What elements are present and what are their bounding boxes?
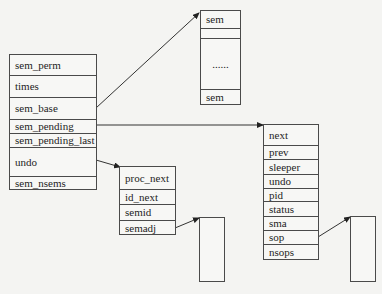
field-nsops: nsops bbox=[264, 245, 318, 260]
semadj-array bbox=[199, 217, 225, 282]
field-sem-base: sem_base bbox=[10, 98, 96, 120]
field-pid: pid bbox=[264, 189, 318, 202]
sop-array bbox=[350, 216, 376, 282]
field-sop: sop bbox=[264, 231, 318, 245]
field-proc-next: proc_next bbox=[120, 167, 175, 190]
arrow-sop-to-array bbox=[318, 217, 350, 237]
sem-array-struct: sem_perm times sem_base sem_pending sem_… bbox=[9, 54, 97, 190]
field-semid: semid bbox=[120, 205, 175, 221]
sem-list: sem ...... sem bbox=[200, 10, 241, 105]
field-sma: sma bbox=[264, 217, 318, 231]
arrow-semadj-to-array bbox=[175, 218, 199, 228]
field-times: times bbox=[10, 76, 96, 98]
field-sem-nsems: sem_nsems bbox=[10, 177, 96, 190]
field-undo: undo bbox=[264, 175, 318, 189]
sem-undo-struct: proc_next id_next semid semadj bbox=[119, 166, 176, 235]
field-sem-pending-last: sem_pending_last bbox=[10, 134, 96, 148]
field-semadj: semadj bbox=[120, 221, 175, 235]
sem-queue-struct: next prev sleeper undo pid status sma so… bbox=[263, 124, 319, 260]
sem-empty bbox=[201, 29, 240, 39]
field-undo: undo bbox=[10, 148, 96, 177]
field-sleeper: sleeper bbox=[264, 160, 318, 175]
sem-last: sem bbox=[201, 90, 240, 105]
sem-first: sem bbox=[201, 11, 240, 29]
field-id-next: id_next bbox=[120, 190, 175, 205]
field-status: status bbox=[264, 202, 318, 217]
field-next: next bbox=[264, 125, 318, 146]
arrow-sem-base-to-sem-list bbox=[96, 13, 199, 108]
field-sem-perm: sem_perm bbox=[10, 55, 96, 76]
sem-ellipsis: ...... bbox=[201, 39, 240, 90]
field-prev: prev bbox=[264, 146, 318, 160]
field-sem-pending: sem_pending bbox=[10, 120, 96, 134]
arrow-undo-to-sem-undo bbox=[96, 160, 120, 167]
